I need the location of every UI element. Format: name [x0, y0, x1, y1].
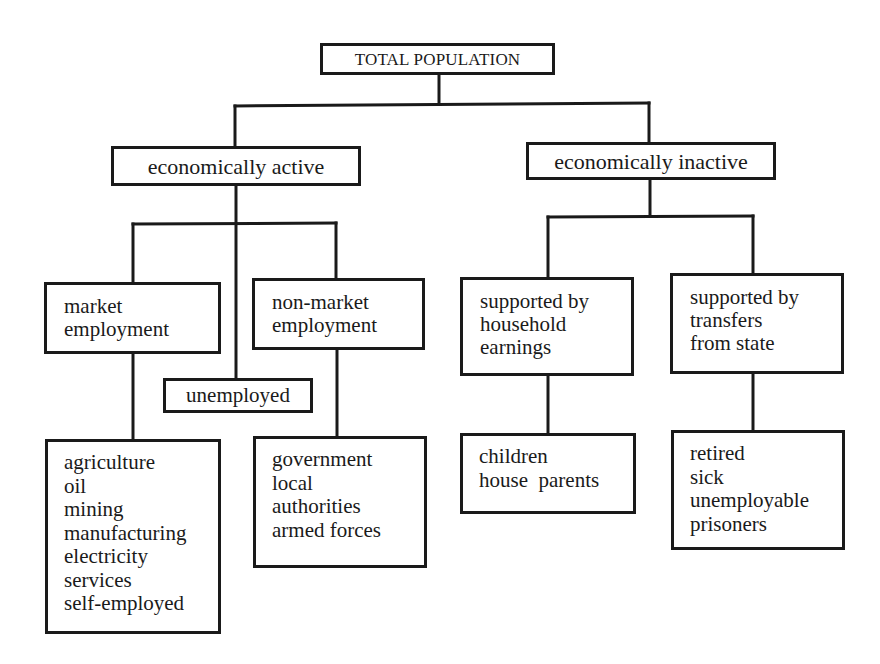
node-economically-active: economically active: [111, 146, 361, 186]
node-market-employment: market employment: [44, 282, 221, 354]
node-label: supported by household earnings: [463, 280, 631, 359]
node-non-market-employment: non-market employment: [252, 278, 425, 350]
connector-root-split: [235, 103, 649, 106]
node-economically-inactive: economically inactive: [526, 142, 776, 180]
node-total-population: TOTAL POPULATION: [320, 43, 555, 75]
node-label: unemployed: [186, 384, 290, 407]
node-label: TOTAL POPULATION: [355, 48, 521, 71]
node-state-dependents-list: retired sick unemployable prisoners: [671, 430, 845, 550]
node-supported-by-household: supported by household earnings: [460, 277, 634, 376]
node-label: economically inactive: [554, 150, 748, 173]
population-tree-diagram: TOTAL POPULATION economically active eco…: [0, 0, 880, 664]
node-list-text: agriculture oil mining manufacturing ele…: [48, 442, 218, 616]
connector-active-split: [133, 223, 336, 224]
node-unemployed: unemployed: [163, 378, 313, 413]
node-supported-by-state: supported by transfers from state: [670, 273, 844, 374]
node-list-text: children house parents: [463, 436, 633, 492]
node-list-text: government local authorities armed force…: [256, 439, 424, 542]
node-label: market employment: [47, 285, 218, 341]
node-list-text: retired sick unemployable prisoners: [674, 433, 842, 536]
node-label: non-market employment: [255, 281, 422, 337]
node-label: economically active: [148, 155, 325, 178]
node-non-market-sectors-list: government local authorities armed force…: [253, 436, 427, 568]
connector-inactive-split: [548, 216, 753, 217]
node-label: supported by transfers from state: [673, 276, 841, 355]
node-household-dependents-list: children house parents: [460, 433, 636, 514]
node-market-sectors-list: agriculture oil mining manufacturing ele…: [45, 439, 221, 634]
